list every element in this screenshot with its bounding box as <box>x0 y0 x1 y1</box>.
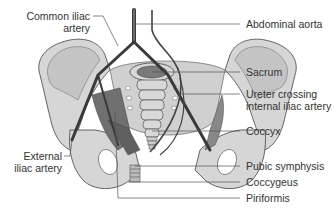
label-abdominal-aorta: Abdominal aorta <box>246 18 322 30</box>
label-common-iliac-artery-line1: Common iliac <box>2 10 90 22</box>
label-sacrum: Sacrum <box>246 66 282 78</box>
label-ureter-crossing-line1: Ureter crossing <box>246 88 331 100</box>
label-ureter-crossing: Ureter crossing internal iliac artery <box>246 88 331 112</box>
label-common-iliac-artery: Common iliac artery <box>2 10 90 34</box>
label-coccygeus: Coccygeus <box>246 176 298 188</box>
label-external-iliac-artery: External iliac artery <box>0 150 62 174</box>
label-piriformis: Piriformis <box>246 192 290 204</box>
coccyx <box>147 137 157 149</box>
label-external-iliac-artery-line1: External <box>0 150 62 162</box>
label-ureter-crossing-line2: internal iliac artery <box>246 100 331 112</box>
label-common-iliac-artery-line2: artery <box>2 22 90 34</box>
label-pubic-symphysis: Pubic symphysis <box>246 160 324 172</box>
label-coccyx: Coccyx <box>246 125 280 137</box>
leader-common-iliac <box>93 16 118 46</box>
pubic-symphysis <box>130 165 140 182</box>
label-external-iliac-artery-line2: iliac artery <box>0 162 62 174</box>
